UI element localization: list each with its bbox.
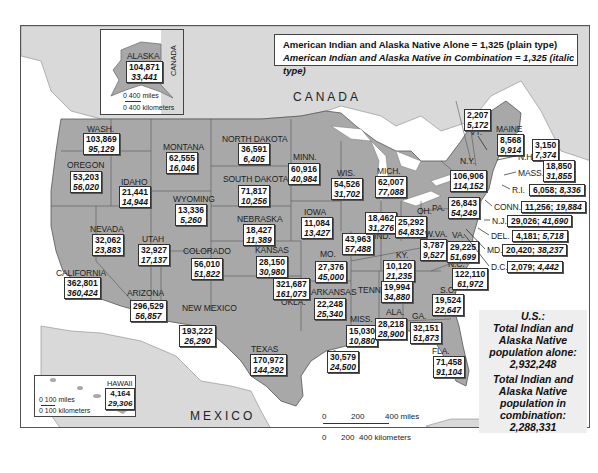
hawaii-scale-km: 0 100 kilometers [39,407,90,414]
state-values-nebraska: 18,42711,389 [243,224,275,246]
state-values-conn: 11,256; 19,884 [521,201,586,213]
map-legend: American Indian and Alaska Native Alone … [274,34,578,66]
state-label-texas: TEXAS [251,344,278,354]
state-label-hawaii: HAWAII [107,379,133,388]
state-values-pa: 26,84354,249 [448,197,480,219]
state-values-del: 4,181; 5,718 [512,230,568,242]
state-values-mich: 62,00777,088 [375,176,407,198]
totals-alone-value: 2,932,248 [479,358,587,370]
country-label-canada-inset: CANADA [169,45,178,76]
state-label-dc: D.C. [491,262,508,272]
state-label-south-dakota: SOUTH DAKOTA [223,174,288,184]
state-values-wyoming: 13,3365,260 [175,204,207,226]
state-label-del: DEL. [491,231,510,241]
state-values-ala: 28,21828,900 [375,318,407,340]
totals-combination-value: 2,288,331 [479,421,587,433]
state-values-wis: 54,52631,702 [331,178,363,200]
state-values-colorado: 56,01051,822 [191,258,223,280]
state-values-ri: 6,058; 8,336 [529,184,585,196]
country-label-mexico: MEXICO [190,409,255,423]
state-label-mass: MASS. [518,168,544,178]
state-values-south-dakota: 71,81710,256 [238,185,270,207]
state-values-mo: 27,37645,000 [315,261,347,283]
state-label-maine: MAINE [496,124,522,134]
state-values-vt: 2,2075,172 [464,109,491,131]
hawaii-scale-bar [41,405,55,406]
totals-alone-label: Total Indian and Alaska Native populatio… [479,322,587,358]
state-label-nebraska: NEBRASKA [237,214,283,224]
state-values-ind: 18,46231,276 [365,212,397,234]
us-totals: U.S.: Total Indian and Alaska Native pop… [479,310,587,433]
state-label-minn: MINN. [293,152,317,162]
alaska-inset: ALASKA 104,871 33,441 CANADA 0 400 miles… [100,29,184,115]
state-label-kansas: KANSAS [255,245,289,255]
state-values-nh: 3,1507,374 [532,139,559,161]
hawaii-scale-miles: 0 100 miles [39,396,75,403]
state-label-ky: KY. [396,250,408,260]
state-label-conn: CONN. [494,202,521,212]
state-values-oh: 25,29264,832 [395,216,427,238]
alaska-scale-km: 0 400 kilometers [123,104,174,111]
state-label-nevada: NEVADA [90,224,124,234]
state-values-md: 20,420; 38,237 [502,244,567,256]
state-values-alaska: 104,871 33,441 [126,61,163,83]
state-values-ny: 106,906114,152 [450,170,487,192]
totals-combination-label: Total Indian and Alaska Native populatio… [479,373,587,421]
state-label-wis: WIS. [337,168,355,178]
legend-combination: American Indian and Alaska Native in Com… [283,51,577,77]
state-values-nevada: 32,06223,883 [92,234,124,256]
totals-heading: U.S.: [479,310,587,322]
state-values-dc: 2,079; 4,442 [507,261,563,273]
state-label-ri: R.I. [512,185,525,195]
state-values-montana: 62,55516,046 [166,152,198,174]
state-label-colorado: COLORADO [183,246,231,256]
state-label-pa: PA. [432,203,445,213]
state-values-maine: 8,5689,914 [497,134,524,156]
state-label-ny: N.Y. [460,156,475,166]
state-label-tenn: TENN. [358,285,383,295]
state-values-mass: 18,85031,855 [543,160,575,182]
state-values-minn: 60,91640,984 [288,163,320,185]
state-values-north-dakota: 36,5916,405 [238,143,270,165]
state-label-arizona: ARIZONA [127,288,164,298]
alaska-scale-miles: 0 400 miles [123,92,159,99]
state-values-texas: 170,972144,292 [250,354,287,376]
alaska-scale-bar [125,101,141,102]
state-values-new-mexico: 193,22226,290 [179,325,216,347]
state-values-okla: 321,687161,073 [273,278,310,300]
state-values-utah: 32,92717,137 [138,244,170,266]
state-values-nj: 29,026; 41,690 [507,215,572,227]
state-values-kansas: 28,15030,980 [256,256,288,278]
state-label-mich: MICH. [377,166,401,176]
state-values-wash: 103,86995,129 [83,133,120,155]
state-values-california: 362,801360,424 [64,277,101,299]
state-values-nc: 122,11061,972 [452,268,488,290]
state-label-arkansas: ARKANSAS [311,287,357,297]
state-label-md: MD. [487,245,502,255]
state-label-va: VA. [452,230,465,240]
state-values-iowa: 11,08413,427 [301,217,333,239]
state-values-miss: 15,03010,880 [346,325,378,347]
state-values-hawaii: 4,164 29,306 [105,388,135,410]
state-label-ala: ALA. [386,307,404,317]
population-map: CANADA MEXICO American Indian and Alaska… [0,0,598,473]
state-label-ga: GA. [412,311,426,321]
state-label-alaska: ALASKA [127,51,159,61]
state-values-ill: 43,96357,488 [342,233,374,255]
state-values-arizona: 296,52956,857 [130,300,167,322]
legend-alone: American Indian and Alaska Native Alone … [283,38,577,51]
state-values-sc: 19,52422,647 [432,294,464,316]
state-label-new-mexico: NEW MEXICO [182,304,237,313]
state-label-miss: MISS. [350,314,373,324]
state-label-fla: FLA. [432,346,450,356]
main-scale-bar [323,423,389,424]
state-label-oregon: OREGON [67,160,104,170]
state-values-fla: 71,45891,104 [433,356,465,378]
state-values-ga: 32,15151,873 [410,322,442,344]
state-values-wva: 3,7879,527 [420,239,447,261]
country-label-canada: CANADA [293,90,361,104]
state-label-montana: MONTANA [163,142,204,152]
state-label-iowa: IOWA [304,207,326,217]
state-values-arkansas: 22,24825,340 [314,298,346,320]
state-values-tenn: 19,99434,880 [381,281,413,303]
